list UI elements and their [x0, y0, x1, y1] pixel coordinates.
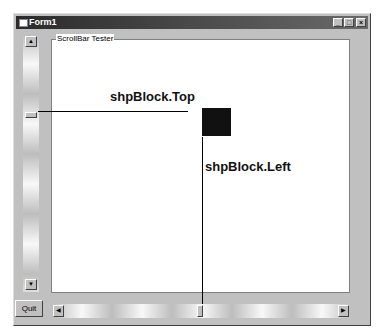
scroll-up-button[interactable]: ▲	[25, 36, 37, 47]
top-indicator-line	[38, 111, 188, 112]
form1-window: Form1 _ □ × ▲ ▼ ScrollBar Tester shpBloc…	[13, 13, 371, 326]
scroll-down-button[interactable]: ▼	[25, 279, 37, 290]
title-bar[interactable]: Form1 _ □ ×	[16, 16, 368, 29]
shpblock-left-label: shpBlock.Left	[205, 159, 291, 174]
shpblock-shape	[202, 108, 231, 136]
scroll-right-button[interactable]: ▶	[338, 305, 349, 317]
horizontal-scrollbar[interactable]: ◀ ▶	[52, 304, 350, 318]
window-title: Form1	[29, 16, 57, 29]
horizontal-scroll-thumb[interactable]	[197, 305, 203, 317]
quit-button[interactable]: Quit	[15, 300, 43, 317]
frame-caption: ScrollBar Tester	[56, 34, 114, 43]
vertical-scrollbar[interactable]: ▲ ▼	[23, 34, 39, 292]
app-icon	[19, 19, 28, 27]
minimize-button[interactable]: _	[333, 18, 343, 27]
scrollbar-tester-frame: ScrollBar Tester shpBlock.Top shpBlock.L…	[51, 39, 350, 293]
left-indicator-line	[202, 137, 203, 317]
maximize-button[interactable]: □	[344, 18, 354, 27]
close-button[interactable]: ×	[356, 18, 366, 27]
vertical-scroll-thumb[interactable]	[25, 112, 37, 118]
scroll-left-button[interactable]: ◀	[53, 305, 64, 317]
shpblock-top-label: shpBlock.Top	[110, 89, 195, 104]
